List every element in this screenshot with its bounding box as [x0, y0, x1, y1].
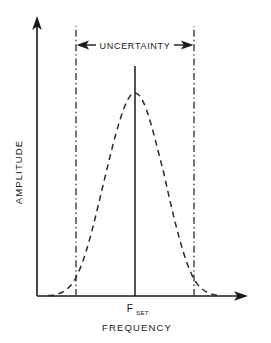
x-axis-label: FREQUENCY: [102, 322, 172, 333]
uncertainty-distribution-figure: UNCERTAINTY AMPLITUDE F SET FREQUENCY: [0, 0, 271, 343]
figure-canvas: UNCERTAINTY AMPLITUDE F SET FREQUENCY: [0, 0, 271, 343]
uncertainty-dimension: UNCERTAINTY: [77, 41, 194, 51]
fset-tick-label: F SET: [127, 303, 149, 316]
fset-main-label: F: [127, 303, 133, 314]
uncertainty-label: UNCERTAINTY: [100, 41, 171, 51]
y-axis-label: AMPLITUDE: [13, 140, 24, 205]
x-axis: [37, 291, 248, 301]
y-axis: [32, 16, 42, 296]
fset-subscript-label: SET: [136, 309, 149, 316]
